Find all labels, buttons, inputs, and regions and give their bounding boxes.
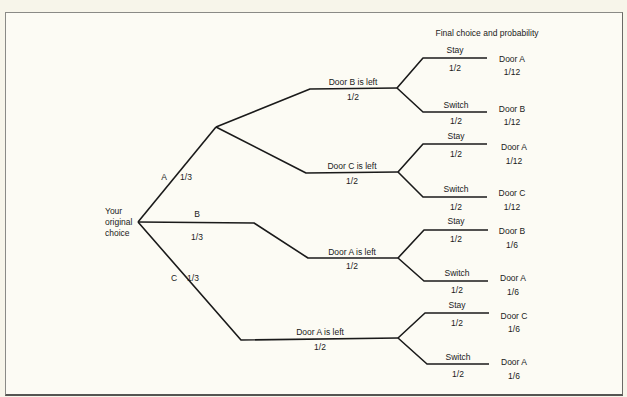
diagram-title: Final choice and probability <box>435 28 538 38</box>
final-prob: 1/6 <box>507 287 519 297</box>
door-left-prob: 1/2 <box>346 261 358 271</box>
final-door: Door A <box>501 142 527 152</box>
root-label-line: Your <box>105 206 132 217</box>
action-label: Switch <box>443 100 468 110</box>
branch-switch-1 <box>397 88 487 112</box>
branch-a <box>138 127 216 222</box>
final-prob: 1/12 <box>504 117 521 127</box>
door-left-label: Door A is left <box>296 327 344 337</box>
root-label: Your original choice <box>105 206 132 239</box>
action-prob: 1/2 <box>450 149 462 159</box>
final-prob: 1/6 <box>508 371 520 381</box>
branch-door-b-left <box>216 88 397 127</box>
final-door: Door A <box>500 273 526 283</box>
action-label: Switch <box>443 184 468 194</box>
final-door: Door A <box>501 357 527 367</box>
action-prob: 1/2 <box>450 234 462 244</box>
choice-c-label: C <box>171 273 177 283</box>
action-label: Switch <box>445 352 470 362</box>
action-label: Stay <box>448 300 465 310</box>
root-label-line: choice <box>105 228 132 239</box>
branch-switch-3 <box>398 258 488 281</box>
action-label: Switch <box>444 268 469 278</box>
branch-switch-4 <box>398 338 489 364</box>
choice-b-prob: 1/3 <box>191 232 203 242</box>
final-prob: 1/12 <box>506 156 523 166</box>
final-prob: 1/12 <box>504 202 521 212</box>
final-door: Door C <box>499 188 526 198</box>
branch-stay-1 <box>397 58 487 88</box>
door-left-prob: 1/2 <box>347 92 359 102</box>
door-left-label: Door B is left <box>329 77 378 87</box>
final-door: Door B <box>499 226 525 236</box>
action-prob: 1/2 <box>451 318 463 328</box>
final-door: Door A <box>499 54 525 64</box>
choice-a-label: A <box>161 172 167 182</box>
action-prob: 1/2 <box>450 116 462 126</box>
action-prob: 1/2 <box>449 63 461 73</box>
branch-stay-3 <box>398 230 488 258</box>
final-door: Door C <box>501 311 528 321</box>
final-prob: 1/12 <box>504 67 521 77</box>
final-prob: 1/6 <box>506 240 518 250</box>
final-door: Door B <box>499 104 525 114</box>
action-label: Stay <box>446 45 463 55</box>
door-left-prob: 1/2 <box>346 176 358 186</box>
door-left-label: Door A is left <box>328 247 376 257</box>
action-prob: 1/2 <box>452 369 464 379</box>
action-label: Stay <box>447 131 464 141</box>
action-prob: 1/2 <box>450 202 462 212</box>
final-prob: 1/6 <box>508 324 520 334</box>
action-label: Stay <box>447 216 464 226</box>
choice-a-prob: 1/3 <box>180 172 192 182</box>
branch-stay-2 <box>398 144 487 172</box>
choice-c-prob: 1/3 <box>187 273 199 283</box>
action-prob: 1/2 <box>451 285 463 295</box>
door-left-label: Door C is left <box>327 161 376 171</box>
choice-b-label: B <box>194 209 200 219</box>
door-left-prob: 1/2 <box>314 342 326 352</box>
branch-stay-4 <box>398 313 489 338</box>
probability-tree-lines <box>0 0 627 397</box>
root-label-line: original <box>105 217 132 228</box>
